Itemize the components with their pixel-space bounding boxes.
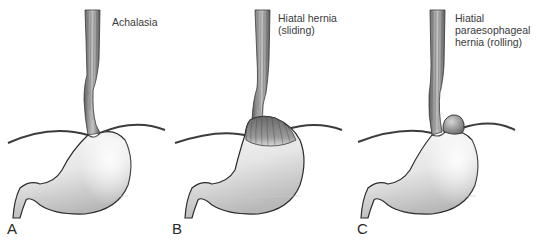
esophagus-a	[84, 10, 100, 135]
panel-letter-a: A	[7, 220, 17, 237]
herniated-stomach-b	[246, 116, 296, 146]
panel-b	[175, 10, 342, 218]
panel-a	[8, 10, 165, 218]
esophagus-c	[429, 10, 445, 135]
panel-letter-b: B	[172, 220, 182, 237]
panel-letter-c: C	[357, 220, 368, 237]
caption-sliding-hernia: Hiatal hernia (sliding)	[278, 12, 337, 36]
caption-achalasia: Achalasia	[112, 16, 158, 28]
herniated-fundus-c	[443, 115, 464, 134]
esophagus-stomach-figure: Achalasia Hiatal hernia (sliding) Hiatia…	[0, 0, 538, 240]
caption-rolling-hernia: Hiatial paraesophageal hernia (rolling)	[455, 12, 530, 48]
